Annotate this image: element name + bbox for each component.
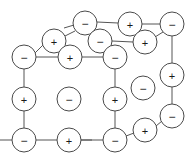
ion-charge-label: − bbox=[111, 51, 118, 65]
ion-charge-label: − bbox=[96, 35, 103, 49]
ion-charge-label: + bbox=[66, 135, 72, 147]
bond-line bbox=[155, 32, 163, 37]
ion-charge-label: + bbox=[51, 36, 57, 48]
ion-charge-label: − bbox=[168, 18, 175, 32]
ion-nodes-group: −+−+−+−+−+−+−+−+−+− bbox=[12, 11, 184, 152]
bond-line bbox=[64, 25, 74, 28]
ion-charge-label: − bbox=[139, 82, 146, 96]
ion-charge-label: − bbox=[81, 17, 88, 31]
ion-positive[interactable]: + bbox=[133, 118, 157, 142]
ion-negative[interactable]: − bbox=[12, 45, 36, 69]
ion-charge-label: + bbox=[127, 19, 133, 31]
ion-negative[interactable]: − bbox=[160, 104, 184, 128]
ion-negative[interactable]: − bbox=[131, 76, 155, 100]
ion-positive[interactable]: + bbox=[160, 63, 184, 87]
ion-charge-label: + bbox=[67, 52, 73, 64]
bond-line bbox=[65, 31, 75, 36]
bond-line bbox=[35, 45, 43, 53]
ion-charge-label: − bbox=[20, 51, 27, 65]
bond-line bbox=[126, 133, 134, 136]
ion-negative[interactable]: − bbox=[160, 12, 184, 36]
ion-charge-label: + bbox=[21, 94, 27, 106]
ion-negative[interactable]: − bbox=[103, 45, 127, 69]
ion-negative[interactable]: − bbox=[103, 128, 127, 152]
ion-charge-label: − bbox=[20, 134, 27, 148]
ion-positive[interactable]: + bbox=[57, 128, 81, 152]
ion-positive[interactable]: + bbox=[12, 87, 36, 111]
ion-charge-label: + bbox=[169, 70, 175, 82]
ion-charge-label: + bbox=[112, 94, 118, 106]
ion-charge-label: − bbox=[168, 110, 175, 124]
ion-charge-label: − bbox=[65, 93, 72, 107]
lattice-diagram: −+−+−+−+−+−+−+−+−+− bbox=[0, 0, 194, 162]
ion-positive[interactable]: + bbox=[133, 30, 157, 54]
ion-negative[interactable]: − bbox=[57, 87, 81, 111]
ionic-lattice-figure: −+−+−+−+−+−+−+−+−+− bbox=[0, 0, 194, 162]
ion-positive[interactable]: + bbox=[58, 45, 82, 69]
ion-positive[interactable]: + bbox=[103, 87, 127, 111]
bond-line bbox=[112, 41, 133, 42]
ion-negative[interactable]: − bbox=[12, 128, 36, 152]
ion-charge-label: − bbox=[111, 134, 118, 148]
ion-charge-label: + bbox=[142, 125, 148, 137]
bond-line bbox=[97, 22, 118, 23]
ion-charge-label: + bbox=[142, 37, 148, 49]
